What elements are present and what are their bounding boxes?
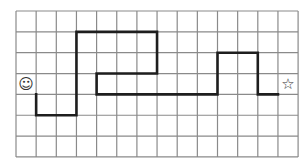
smiley-icon: ☺ — [18, 76, 34, 91]
star-icon: ☆ — [281, 76, 294, 91]
maze-grid — [0, 0, 308, 163]
